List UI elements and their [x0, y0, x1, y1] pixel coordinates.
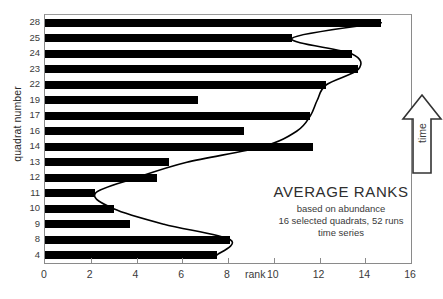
annotation-subtitle-1: based on abundance — [249, 203, 433, 215]
y-tick-label-14: 14 — [18, 141, 40, 150]
y-tick-label-23: 23 — [18, 64, 40, 73]
y-tick-label-28: 28 — [18, 17, 40, 26]
plot-area: AVERAGE RANKS based on abundance 16 sele… — [44, 14, 412, 264]
x-tick-label-2: 2 — [75, 268, 105, 280]
x-tick-mark-4 — [137, 258, 138, 263]
x-tick-mark-12 — [320, 258, 321, 263]
y-tick-label-13: 13 — [18, 157, 40, 166]
time-arrow: time — [401, 93, 443, 175]
x-tick-label-8: 8 — [212, 268, 242, 280]
x-tick-label-6: 6 — [166, 268, 196, 280]
annotation-block: AVERAGE RANKS based on abundance 16 sele… — [249, 183, 433, 239]
y-tick-label-19: 19 — [18, 95, 40, 104]
x-tick-mark-10 — [274, 258, 275, 263]
y-tick-label-11: 11 — [18, 188, 40, 197]
time-arrow-label: time — [416, 103, 428, 163]
y-tick-label-25: 25 — [18, 33, 40, 42]
y-tick-label-22: 22 — [18, 79, 40, 88]
x-tick-mark-8 — [228, 258, 229, 263]
y-axis-tick-labels: 28252423221917161413121110984 — [16, 14, 40, 264]
x-tick-label-12: 12 — [304, 268, 334, 280]
x-tick-mark-2 — [91, 258, 92, 263]
x-tick-label-4: 4 — [121, 268, 151, 280]
x-tick-label-14: 14 — [349, 268, 379, 280]
y-tick-label-16: 16 — [18, 126, 40, 135]
y-tick-label-10: 10 — [18, 203, 40, 212]
y-tick-label-9: 9 — [18, 219, 40, 228]
y-tick-label-4: 4 — [18, 250, 40, 259]
annotation-title: AVERAGE RANKS — [249, 183, 433, 200]
y-tick-label-24: 24 — [18, 48, 40, 57]
annotation-subtitle-2: 16 selected quadrats, 52 runs — [249, 215, 433, 227]
y-tick-label-17: 17 — [18, 110, 40, 119]
x-tick-label-0: 0 — [29, 268, 59, 280]
y-tick-label-12: 12 — [18, 172, 40, 181]
y-tick-label-8: 8 — [18, 234, 40, 243]
x-tick-mark-6 — [182, 258, 183, 263]
annotation-subtitle-3: time series — [249, 227, 433, 239]
x-axis-tick-labels: 0246810121416 — [44, 268, 412, 286]
x-tick-label-16: 16 — [395, 268, 425, 280]
x-axis-title-text: rank — [245, 268, 265, 280]
x-tick-mark-14 — [365, 258, 366, 263]
